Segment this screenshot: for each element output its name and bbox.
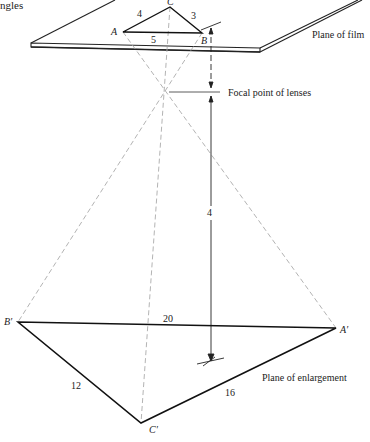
vertex-c: C <box>167 0 174 7</box>
vertex-b-prime: B′ <box>4 317 12 327</box>
film-plate <box>31 0 362 52</box>
focal-point-label: Focal point of lenses <box>228 88 311 98</box>
focal-distance-label: 4 <box>207 208 212 218</box>
caption-fragment: ngles <box>0 0 23 11</box>
side-bc: 12 <box>71 381 81 391</box>
side-ca: 16 <box>225 388 235 398</box>
side-ac: 4 <box>137 9 142 19</box>
side-ab: 5 <box>151 35 156 45</box>
side-ba: 20 <box>163 314 173 324</box>
vertex-c-prime: C′ <box>149 425 158 435</box>
vertex-a-prime: A′ <box>340 325 348 335</box>
vertex-a: A <box>111 27 117 37</box>
dimension-line <box>197 22 224 366</box>
enlargement-plane-label: Plane of enlargement <box>262 373 347 383</box>
film-plane-label: Plane of film <box>312 30 364 40</box>
vertex-b: B <box>201 36 207 46</box>
side-cb: 3 <box>191 11 196 21</box>
